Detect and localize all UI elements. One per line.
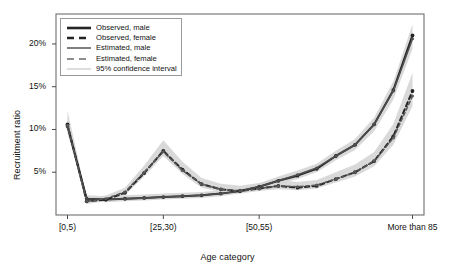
data-point [354, 171, 357, 174]
data-point [392, 137, 395, 140]
data-point [411, 95, 414, 98]
data-point [181, 169, 184, 172]
data-point [392, 89, 395, 92]
data-point [296, 173, 299, 176]
x-tick-label: [50,55) [211, 222, 307, 232]
y-tick-label: 5% [12, 166, 46, 176]
data-point [315, 166, 318, 169]
legend-key-solid-medium-gray [66, 43, 92, 53]
chart-legend: Observed, male Observed, female Estimate… [60, 18, 182, 76]
legend-label: Observed, male [96, 23, 150, 33]
data-point [411, 33, 415, 37]
data-point [373, 123, 376, 126]
y-tick-label: 15% [12, 81, 46, 91]
data-point [200, 183, 203, 186]
data-point [124, 190, 127, 193]
data-point [200, 194, 203, 197]
data-point [277, 179, 280, 182]
legend-key-solid-thick-dark [66, 23, 92, 33]
data-point [411, 37, 414, 40]
chart-figure: Recruitment ratio Age category Observed,… [0, 0, 455, 275]
legend-key-dashed-medium-gray [66, 54, 92, 64]
data-point [334, 178, 337, 181]
legend-item-estimated-male: Estimated, male [66, 43, 176, 53]
data-point [354, 143, 357, 146]
legend-label: Estimated, female [96, 54, 157, 64]
data-point [411, 89, 415, 93]
legend-item-observed-male: Observed, male [66, 23, 176, 33]
data-point [239, 190, 242, 193]
y-tick-label: 10% [12, 123, 46, 133]
data-point [124, 197, 127, 200]
x-tick-label: [25,30) [115, 222, 211, 232]
legend-item-confidence-interval: 95% confidence interval [66, 64, 176, 74]
legend-label: 95% confidence interval [96, 64, 177, 74]
data-point [85, 200, 88, 203]
legend-key-solid-thin-lightgray [66, 64, 92, 74]
data-point [143, 196, 146, 199]
data-point [181, 195, 184, 198]
data-point [258, 187, 261, 190]
data-point [315, 184, 318, 187]
data-point [66, 124, 69, 127]
x-tick-label: [0,5) [20, 222, 116, 232]
data-point [162, 196, 165, 199]
legend-label: Estimated, male [96, 43, 150, 53]
legend-item-observed-female: Observed, female [66, 33, 176, 43]
data-point [143, 171, 146, 174]
x-axis-title: Age category [0, 252, 455, 262]
data-point [277, 184, 280, 187]
data-point [104, 197, 107, 200]
data-point [219, 192, 222, 195]
y-tick-label: 20% [12, 38, 46, 48]
legend-item-estimated-female: Estimated, female [66, 54, 176, 64]
data-point [373, 160, 376, 163]
legend-label: Observed, female [96, 33, 156, 43]
data-point [162, 150, 165, 153]
data-point [334, 154, 337, 157]
legend-key-dashed-thick-dark [66, 33, 92, 43]
data-point [219, 188, 222, 191]
x-tick-label: More than 85 [365, 222, 455, 232]
data-point [296, 185, 299, 188]
